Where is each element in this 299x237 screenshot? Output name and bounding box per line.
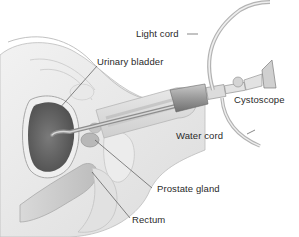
label-urinary-bladder: Urinary bladder xyxy=(97,57,163,67)
label-water-cord: Water cord xyxy=(176,131,223,141)
label-prostate-gland: Prostate gland xyxy=(157,184,220,194)
label-rectum: Rectum xyxy=(132,215,165,225)
label-cystoscope: Cystoscope xyxy=(234,95,285,105)
leader-water-cord xyxy=(247,130,255,134)
water-cord xyxy=(222,98,260,146)
label-light-cord: Light cord xyxy=(136,29,179,39)
cystoscopy-diagram: Light cord Urinary bladder Cystoscope Wa… xyxy=(0,0,299,237)
urinary-bladder xyxy=(23,96,79,178)
